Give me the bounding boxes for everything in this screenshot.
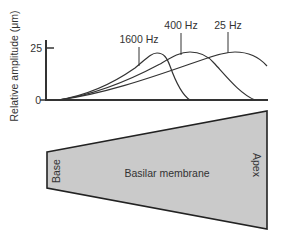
base-label: Base: [50, 159, 62, 183]
label-1600hz: 1600 Hz: [119, 33, 158, 45]
basilar-membrane-diagram: Relative amplitude (μm) 25 0 1600 Hz 400…: [0, 0, 285, 241]
label-25hz: 25 Hz: [214, 19, 241, 31]
curve-1600hz: [58, 53, 190, 100]
label-400hz: 400 Hz: [164, 19, 197, 31]
y-axis-label: Relative amplitude (μm): [8, 10, 20, 121]
tick-label-0: 0: [35, 94, 41, 106]
tick-label-25: 25: [30, 42, 42, 54]
membrane-label: Basilar membrane: [124, 167, 209, 179]
apex-label: Apex: [251, 153, 263, 178]
